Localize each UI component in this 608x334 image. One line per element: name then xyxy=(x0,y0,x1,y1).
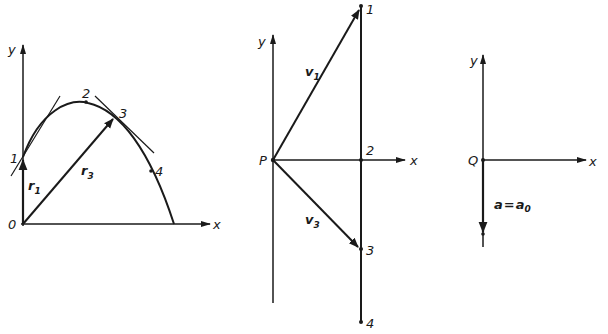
x-axis-label: x xyxy=(212,217,221,232)
point-1-label: 1 xyxy=(366,2,374,17)
a-tip-dot xyxy=(481,232,485,236)
point-1-dot xyxy=(359,4,363,8)
y-axis-label: y xyxy=(7,42,16,57)
position-panel: y x 0 1 2 3 4 r1 r3 xyxy=(7,42,221,232)
point-3-label: 3 xyxy=(366,243,374,258)
x-axis-label: x xyxy=(588,154,597,169)
x-axis-label: x xyxy=(409,153,418,168)
origin-label: P xyxy=(259,153,267,168)
point-4-label: 4 xyxy=(366,316,374,331)
r3-label: r3 xyxy=(81,163,94,181)
origin-label: Q xyxy=(468,153,478,168)
point-2-label: 2 xyxy=(82,86,90,101)
vector-v1 xyxy=(273,10,359,160)
tangent-line-3 xyxy=(95,96,154,153)
origin-dot xyxy=(271,158,275,162)
tangent-line-1 xyxy=(11,96,60,176)
point-2-label: 2 xyxy=(366,143,374,158)
point-3-dot xyxy=(359,247,363,251)
acceleration-equation: a=a0 xyxy=(494,197,531,214)
acceleration-panel: y x Q a=a0 xyxy=(468,53,597,247)
point-3-label: 3 xyxy=(119,106,127,121)
origin-dot xyxy=(481,158,485,162)
v1-label: v1 xyxy=(305,64,320,82)
y-axis-label: y xyxy=(469,53,478,68)
point-1-label: 1 xyxy=(10,151,18,166)
velocity-panel: y x P 1 2 3 4 v1 v3 xyxy=(257,2,418,331)
point-4-dot xyxy=(359,320,363,324)
vector-v3 xyxy=(273,160,358,247)
origin-label: 0 xyxy=(8,217,16,232)
point-4-label: 4 xyxy=(155,164,163,179)
r1-label: r1 xyxy=(28,178,41,196)
v3-label: v3 xyxy=(305,212,320,230)
point-4-dot xyxy=(149,169,153,173)
point-2-dot xyxy=(359,158,363,162)
kinematics-diagram: y x 0 1 2 3 4 r1 r3 y x P 1 2 3 4 v1 v3 xyxy=(0,0,608,334)
y-axis-label: y xyxy=(257,34,266,49)
